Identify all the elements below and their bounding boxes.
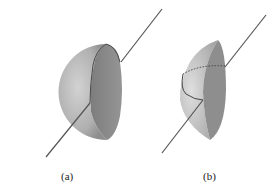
figure-canvas: [0, 0, 279, 193]
panel-b-label: (b): [203, 170, 216, 182]
panel-a-label: (a): [61, 170, 73, 182]
panel-b: [162, 15, 266, 153]
axis-line-a-upper: [121, 9, 162, 62]
axis-line-b-upper: [225, 15, 266, 67]
panel-a: [46, 9, 162, 157]
